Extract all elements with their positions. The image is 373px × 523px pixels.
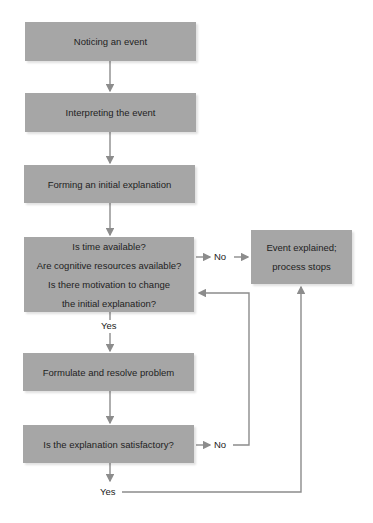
node-text-line: Is time available? [72, 237, 145, 256]
node-text: Noticing an event [74, 32, 147, 51]
flowchart-canvas: Noticing an event Interpreting the event… [0, 0, 373, 523]
node-event-explained: Event explained; process stops [251, 230, 352, 284]
label-decision-no: No [214, 251, 226, 262]
node-formulate-resolve: Formulate and resolve problem [23, 353, 194, 391]
node-satisfactory: Is the explanation satisfactory? [23, 425, 194, 463]
node-text-line: process stops [272, 257, 331, 276]
label-decision-yes: Yes [101, 320, 117, 331]
node-initial-explanation: Forming an initial explanation [24, 165, 195, 203]
node-text-line: Is there motivation to change [48, 275, 170, 294]
node-interpreting-event: Interpreting the event [25, 93, 196, 132]
node-text-line: the initial explanation? [62, 294, 156, 313]
node-text: Is the explanation satisfactory? [43, 435, 173, 454]
node-text: Interpreting the event [66, 103, 156, 122]
node-text-line: Are cognitive resources available? [37, 256, 182, 275]
node-text-line: Event explained; [266, 238, 336, 257]
node-text: Forming an initial explanation [48, 175, 172, 194]
node-decision-resources: Is time available? Are cognitive resourc… [24, 237, 194, 312]
label-satisfactory-yes: Yes [100, 486, 116, 497]
node-noticing-event: Noticing an event [25, 22, 196, 61]
label-satisfactory-no: No [214, 439, 226, 450]
node-text: Formulate and resolve problem [43, 363, 174, 382]
